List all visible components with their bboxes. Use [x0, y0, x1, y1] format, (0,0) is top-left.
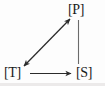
diagram-canvas: [P] [T] [S] — [0, 0, 105, 86]
node-label-t: [T] — [4, 66, 21, 80]
edge-t-to-p-double-arrow — [24, 19, 70, 66]
node-label-s: [S] — [76, 66, 92, 80]
node-label-p: [P] — [68, 3, 84, 17]
bottom-edge-band — [0, 83, 105, 86]
